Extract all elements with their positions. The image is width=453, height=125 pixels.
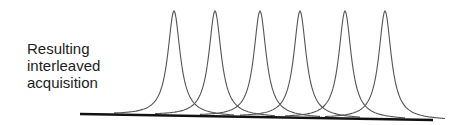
peak-curve-6 [325,11,445,119]
peak-curve-1 [114,11,234,115]
interleaved-peaks-plot [0,0,453,125]
